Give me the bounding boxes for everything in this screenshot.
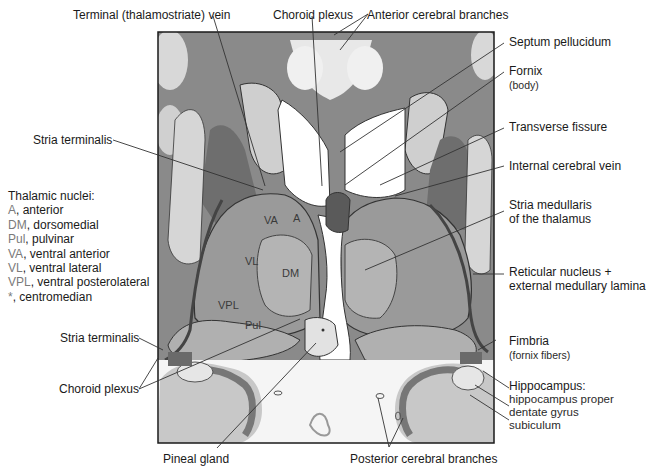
nucleus-vl-label: VL xyxy=(245,254,258,268)
label-fornix-body: (body) xyxy=(509,79,539,92)
legend-item: A, anterior xyxy=(8,203,149,217)
legend-abbr: VL xyxy=(8,261,23,275)
legend-text: , ventral posterolateral xyxy=(31,275,150,289)
label-transverse-fissure: Transverse fissure xyxy=(509,120,607,134)
legend-abbr: Pul xyxy=(8,232,25,246)
label-fimbria: Fimbria xyxy=(509,334,549,348)
legend-abbr: DM xyxy=(8,218,27,232)
label-anterior-cerebral-branches: Anterior cerebral branches xyxy=(367,8,508,22)
nucleus-dm-label: DM xyxy=(282,266,299,280)
label-posterior-cerebral-branches: Posterior cerebral branches xyxy=(350,452,497,466)
label-choroid-plexus-left: Choroid plexus xyxy=(59,382,139,396)
legend-text: , dorsomedial xyxy=(27,218,99,232)
label-stria-medullaris-2: of the thalamus xyxy=(509,212,591,226)
legend-abbr: A xyxy=(8,203,16,217)
label-dentate-gyrus: dentate gyrus xyxy=(509,406,579,419)
legend-item: DM, dorsomedial xyxy=(8,218,149,232)
legend-abbr: VA xyxy=(8,247,23,261)
legend-text: , pulvinar xyxy=(25,232,74,246)
label-internal-cerebral-vein: Internal cerebral vein xyxy=(509,159,621,173)
label-septum-pellucidum: Septum pellucidum xyxy=(509,35,611,49)
label-hippocampus: Hippocampus: xyxy=(509,379,586,393)
legend-text: , ventral lateral xyxy=(23,261,102,275)
legend-text: , centromedian xyxy=(13,290,92,304)
legend-text: , ventral anterior xyxy=(23,247,110,261)
label-stria-medullaris-1: Stria medullaris xyxy=(509,198,592,212)
label-reticular-nucleus-1: Reticular nucleus + xyxy=(509,265,611,279)
label-stria-terminalis-upper: Stria terminalis xyxy=(33,133,112,147)
label-stria-terminalis-lower: Stria terminalis xyxy=(60,331,139,345)
label-hippocampus-proper: hippocampus proper xyxy=(509,393,614,406)
nucleus-va-label: VA xyxy=(264,213,278,227)
legend-text: , anterior xyxy=(16,203,63,217)
label-reticular-nucleus-2: external medullary lamina xyxy=(509,279,646,293)
legend-item: VL, ventral lateral xyxy=(8,261,149,275)
nucleus-vpl-label: VPL xyxy=(218,298,239,312)
legend-item: Pul, pulvinar xyxy=(8,232,149,246)
label-terminal-vein: Terminal (thalamostriate) vein xyxy=(73,8,230,22)
nucleus-pul-label: Pul xyxy=(245,318,261,332)
legend-item: VPL, ventral posterolateral xyxy=(8,275,149,289)
label-fornix: Fornix xyxy=(509,64,542,78)
label-choroid-plexus-top: Choroid plexus xyxy=(273,8,353,22)
legend-title: Thalamic nuclei: xyxy=(8,189,149,203)
legend-item: *, centromedian xyxy=(8,290,149,304)
legend-item: VA, ventral anterior xyxy=(8,247,149,261)
nucleus-a-label: A xyxy=(293,211,300,225)
thalamic-nuclei-legend: Thalamic nuclei: A, anterior DM, dorsome… xyxy=(8,189,149,304)
label-subiculum: subiculum xyxy=(509,419,561,432)
label-pineal-gland: Pineal gland xyxy=(163,452,229,466)
legend-abbr: VPL xyxy=(8,275,31,289)
label-fimbria-sub: (fornix fibers) xyxy=(509,349,570,362)
